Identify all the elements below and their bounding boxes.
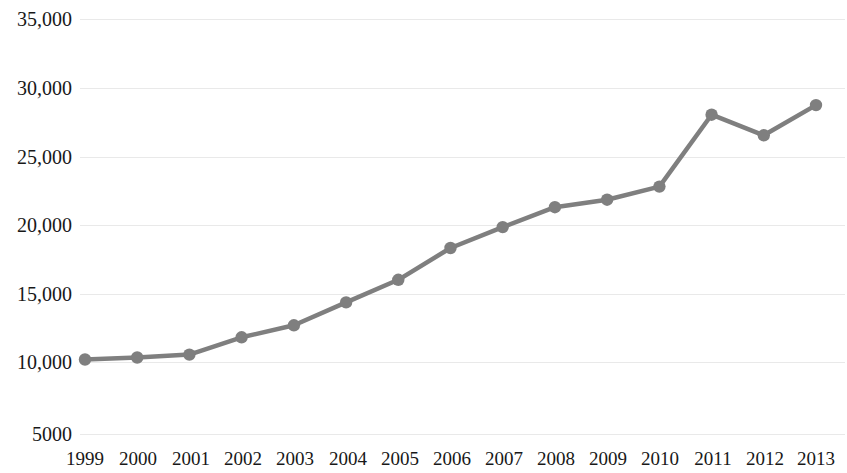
x-tick-label-2003: 2003 bbox=[265, 449, 325, 469]
x-tick-label-2004: 2004 bbox=[318, 449, 378, 469]
data-point-1999 bbox=[79, 353, 91, 365]
y-tick-label-5000: 5000 bbox=[0, 424, 72, 444]
data-point-2012 bbox=[758, 129, 770, 141]
data-point-2008 bbox=[549, 201, 561, 213]
data-point-2013 bbox=[810, 99, 822, 111]
x-tick-label-2002: 2002 bbox=[213, 449, 273, 469]
x-tick-label-1999: 1999 bbox=[55, 449, 115, 469]
x-tick-label-2000: 2000 bbox=[108, 449, 168, 469]
x-tick-label-2006: 2006 bbox=[422, 449, 482, 469]
data-point-2007 bbox=[497, 221, 509, 233]
y-tick-label-10000: 10,000 bbox=[0, 352, 72, 372]
x-tick-label-2009: 2009 bbox=[578, 449, 638, 469]
data-series-layer bbox=[0, 0, 847, 473]
data-point-2005 bbox=[392, 274, 404, 286]
data-point-2011 bbox=[705, 109, 717, 121]
y-tick-label-25000: 25,000 bbox=[0, 147, 72, 167]
x-tick-label-2005: 2005 bbox=[370, 449, 430, 469]
data-point-2001 bbox=[183, 348, 195, 360]
data-point-2004 bbox=[340, 296, 352, 308]
x-tick-label-2001: 2001 bbox=[161, 449, 221, 469]
y-axis: 35,000 30,000 25,000 20,000 15,000 10,00… bbox=[0, 0, 72, 473]
x-tick-label-2011: 2011 bbox=[683, 449, 743, 469]
data-point-2010 bbox=[653, 180, 665, 192]
data-point-2002 bbox=[235, 331, 247, 343]
y-tick-label-20000: 20,000 bbox=[0, 215, 72, 235]
y-tick-label-30000: 30,000 bbox=[0, 78, 72, 98]
series-markers bbox=[79, 99, 822, 366]
data-point-2009 bbox=[601, 194, 613, 206]
x-tick-label-2007: 2007 bbox=[474, 449, 534, 469]
y-tick-label-35000: 35,000 bbox=[0, 9, 72, 29]
plot-area bbox=[0, 0, 847, 473]
y-tick-label-15000: 15,000 bbox=[0, 284, 72, 304]
data-point-2006 bbox=[444, 242, 456, 254]
data-point-2003 bbox=[288, 319, 300, 331]
x-tick-label-2010: 2010 bbox=[630, 449, 690, 469]
line-chart: 35,000 30,000 25,000 20,000 15,000 10,00… bbox=[0, 0, 847, 473]
series-line bbox=[85, 105, 816, 359]
x-tick-label-2013: 2013 bbox=[786, 449, 846, 469]
x-tick-label-2008: 2008 bbox=[526, 449, 586, 469]
data-point-2000 bbox=[131, 351, 143, 363]
